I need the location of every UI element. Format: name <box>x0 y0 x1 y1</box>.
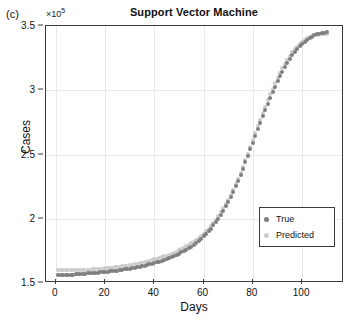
x-tick-label: 40 <box>148 287 159 298</box>
legend-marker-true <box>264 217 269 222</box>
legend-label-true: True <box>276 214 294 224</box>
x-tick-label: 0 <box>52 287 58 298</box>
data-point <box>219 213 223 217</box>
data-point <box>236 179 240 183</box>
y-axis-exponent-power: 5 <box>61 7 65 14</box>
gridline-vertical <box>56 26 57 281</box>
x-tick-mark <box>252 279 253 284</box>
gridline-horizontal <box>46 155 342 156</box>
legend-item-true: True <box>264 211 294 227</box>
data-point <box>285 61 289 65</box>
data-point <box>239 173 243 177</box>
data-point <box>280 70 284 74</box>
data-point <box>216 217 220 221</box>
data-point <box>288 57 292 61</box>
y-tick-label: 3 <box>29 84 35 95</box>
data-point <box>273 85 277 89</box>
x-tick-mark <box>104 279 105 284</box>
data-point <box>231 190 235 194</box>
legend-marker-predicted <box>264 233 269 238</box>
data-point <box>266 102 270 106</box>
legend-label-predicted: Predicted <box>276 230 314 240</box>
x-tick-label: 80 <box>246 287 257 298</box>
x-tick-mark <box>203 279 204 284</box>
data-point <box>278 74 282 78</box>
data-point <box>211 223 215 227</box>
data-point <box>276 79 280 83</box>
gridline-vertical <box>105 26 106 281</box>
x-tick-mark <box>153 279 154 284</box>
y-tick-label: 2 <box>29 212 35 223</box>
data-point <box>271 90 275 94</box>
data-point <box>258 121 262 125</box>
legend: True Predicted <box>259 207 335 247</box>
figure-panel: (c) Support Vector Machine ×105 1.522.53… <box>0 0 353 326</box>
data-point <box>243 160 247 164</box>
data-point <box>246 154 250 158</box>
y-tick-mark <box>38 282 43 283</box>
data-point <box>209 227 213 231</box>
gridline-vertical <box>253 26 254 281</box>
x-tick-mark <box>55 279 56 284</box>
y-axis-title: Cases <box>19 97 33 177</box>
data-point <box>261 114 265 118</box>
panel-label: (c) <box>6 8 19 20</box>
x-tick-label: 60 <box>197 287 208 298</box>
legend-item-predicted: Predicted <box>264 227 314 243</box>
data-point <box>229 195 233 199</box>
data-point <box>268 96 272 100</box>
y-axis-exponent-prefix: ×10 <box>46 9 61 19</box>
gridline-vertical <box>204 26 205 281</box>
data-point <box>221 209 225 213</box>
y-tick-mark <box>38 217 43 218</box>
data-point <box>241 167 245 171</box>
y-tick-mark <box>38 25 43 26</box>
data-point <box>253 134 257 138</box>
y-tick-mark <box>38 89 43 90</box>
data-point <box>263 108 267 112</box>
data-point <box>226 200 230 204</box>
data-point <box>283 65 287 69</box>
data-point <box>214 220 218 224</box>
x-tick-label: 20 <box>99 287 110 298</box>
y-tick-mark <box>38 153 43 154</box>
gridline-horizontal <box>46 90 342 91</box>
y-tick-label: 3.5 <box>21 20 35 31</box>
chart-title: Support Vector Machine <box>45 6 343 18</box>
data-point <box>248 147 252 151</box>
data-point <box>256 127 260 131</box>
x-tick-label: 100 <box>293 287 310 298</box>
x-tick-mark <box>301 279 302 284</box>
gridline-vertical <box>154 26 155 281</box>
x-axis-title: Days <box>45 300 343 314</box>
y-axis-exponent-label: ×105 <box>46 7 65 19</box>
data-point <box>251 141 255 145</box>
y-tick-label: 1.5 <box>21 277 35 288</box>
data-point <box>224 204 228 208</box>
